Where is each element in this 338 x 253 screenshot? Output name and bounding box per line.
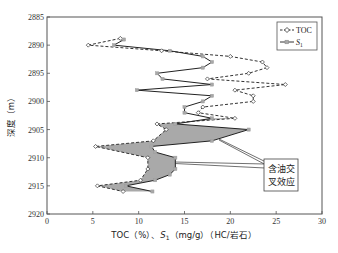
s1-square-marker xyxy=(122,38,125,41)
x-tick-label: 30 xyxy=(318,217,326,226)
x-tick-label: 10 xyxy=(135,217,143,226)
x-tick-label: 25 xyxy=(272,217,280,226)
annotation-line1: 含油交 xyxy=(268,163,295,174)
s1-square-marker xyxy=(247,128,250,131)
y-tick-label: 2915 xyxy=(28,182,44,191)
s1-square-marker xyxy=(174,167,177,170)
s1-square-marker xyxy=(168,49,171,52)
s1-square-marker xyxy=(210,139,213,142)
s1-square-marker xyxy=(112,44,115,47)
y-axis-title: 深度（m） xyxy=(6,93,16,137)
s1-square-marker xyxy=(150,145,153,148)
s1-square-marker xyxy=(210,117,213,120)
s1-square-marker xyxy=(174,122,177,125)
s1-square-marker xyxy=(201,66,204,69)
y-tick-label: 2885 xyxy=(28,13,44,22)
s1-square-marker xyxy=(161,77,164,80)
s1-square-marker xyxy=(154,150,157,153)
y-tick-label: 2895 xyxy=(28,69,44,78)
s1-square-marker xyxy=(174,156,177,159)
x-tick-label: 20 xyxy=(226,217,234,226)
legend-s1-sub: 1 xyxy=(300,42,303,48)
legend: TOC S1 xyxy=(277,22,317,50)
y-tick-label: 2905 xyxy=(28,126,44,135)
y-tick-label: 2920 xyxy=(28,210,44,219)
s1-square-marker xyxy=(201,100,204,103)
x-tick-label: 15 xyxy=(181,217,189,226)
s1-square-marker xyxy=(210,60,213,63)
annotation-line2: 叉效应 xyxy=(268,176,295,187)
annotation-box: 含油交 叉效应 xyxy=(264,159,298,191)
y-tick-label: 2890 xyxy=(28,41,44,50)
s1-square-marker xyxy=(168,173,171,176)
s1-square-marker xyxy=(183,111,186,114)
y-tick-label: 2910 xyxy=(28,154,44,163)
s1-square-marker xyxy=(210,83,213,86)
x-tick-label: 0 xyxy=(45,217,49,226)
s1-square-marker xyxy=(154,179,157,182)
legend-toc-label: TOC xyxy=(296,26,312,35)
s1-square-marker xyxy=(124,184,127,187)
x-axis-title-prefix: TOC（%）、 xyxy=(110,230,160,240)
s1-square-marker xyxy=(155,72,158,75)
x-axis-title-suffix: （mg/g）（HC/岩石） xyxy=(170,230,257,240)
s1-square-marker xyxy=(210,94,213,97)
s1-square-marker xyxy=(135,89,138,92)
y-tick-label: 2900 xyxy=(28,97,44,106)
s1-square-marker xyxy=(201,55,204,58)
chart-svg: 051015202530 288528902895290029052910291… xyxy=(0,0,338,253)
s1-square-marker xyxy=(151,190,154,193)
x-axis-title: TOC（%）、S1（mg/g）（HC/岩石） xyxy=(110,230,256,241)
x-tick-label: 5 xyxy=(91,217,95,226)
s1-square-marker xyxy=(183,105,186,108)
legend-square-icon xyxy=(285,40,289,44)
